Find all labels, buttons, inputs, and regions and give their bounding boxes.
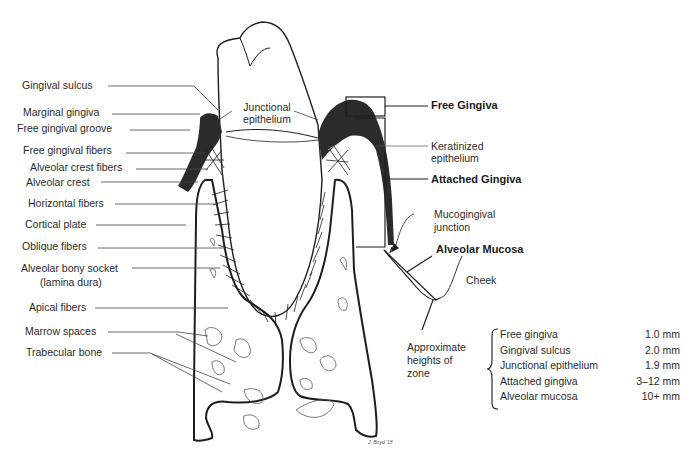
- label-alveolar-crest: Alveolar crest: [26, 176, 90, 188]
- zone-name: Gingival sulcus: [500, 343, 571, 359]
- table-row: Attached gingiva3–12 mm: [500, 374, 680, 390]
- label-lamina-dura: (lamina dura): [40, 276, 102, 288]
- label-keratinized-epithelium-2: epithelium: [431, 152, 479, 164]
- label-marrow-spaces: Marrow spaces: [25, 325, 96, 337]
- brace-icon: [486, 328, 500, 410]
- label-free-gingival-groove: Free gingival groove: [17, 122, 112, 134]
- tooth: [217, 22, 322, 316]
- label-free-gingiva: Free Gingiva: [431, 99, 498, 111]
- label-junctional-epithelium-1: Junctional: [235, 101, 299, 113]
- table-row: Alveolar mucosa10+ mm: [500, 389, 680, 405]
- label-mucogingival-junction-2: junction: [434, 221, 470, 233]
- label-oblique-fibers: Oblique fibers: [22, 240, 87, 252]
- zone-name: Free gingiva: [500, 327, 558, 343]
- label-apical-fibers: Apical fibers: [29, 301, 86, 313]
- label-alveolar-crest-fibers: Alveolar crest fibers: [30, 161, 122, 173]
- table-row: Free gingiva1.0 mm: [500, 327, 680, 343]
- zone-heights-table: Free gingiva1.0 mm Gingival sulcus2.0 mm…: [500, 327, 680, 405]
- label-gingival-sulcus: Gingival sulcus: [22, 79, 93, 91]
- label-horizontal-fibers: Horizontal fibers: [28, 197, 104, 209]
- label-free-gingival-fibers: Free gingival fibers: [23, 144, 112, 156]
- label-cortical-plate: Cortical plate: [25, 218, 86, 230]
- zone-height: 1.9 mm: [645, 358, 680, 374]
- label-cheek: Cheek: [466, 274, 496, 286]
- label-alveolar-mucosa: Alveolar Mucosa: [436, 243, 523, 255]
- signature: J. Boyd '18: [367, 439, 393, 445]
- zone-height: 3–12 mm: [636, 374, 680, 390]
- label-approximate-3: zone: [407, 367, 430, 379]
- label-marginal-gingiva: Marginal gingiva: [23, 106, 99, 118]
- label-alveolar-bony-socket: Alveolar bony socket: [21, 262, 118, 274]
- right-gingiva: [318, 100, 394, 245]
- label-attached-gingiva: Attached Gingiva: [431, 173, 521, 185]
- label-trabecular-bone: Trabecular bone: [26, 346, 102, 358]
- label-approximate-1: Approximate: [407, 341, 466, 353]
- label-approximate-2: heights of: [407, 354, 453, 366]
- table-row: Junctional epithelium1.9 mm: [500, 358, 680, 374]
- zone-height: 2.0 mm: [645, 343, 680, 359]
- zone-height: 10+ mm: [642, 389, 680, 405]
- label-junctional-epithelium-2: epithelium: [235, 113, 299, 125]
- zone-name: Junctional epithelium: [500, 358, 598, 374]
- label-mucogingival-junction-1: Mucogingival: [434, 208, 495, 220]
- zone-name: Attached gingiva: [500, 374, 578, 390]
- zone-height: 1.0 mm: [645, 327, 680, 343]
- label-keratinized-epithelium-1: Keratinized: [431, 140, 484, 152]
- table-row: Gingival sulcus2.0 mm: [500, 343, 680, 359]
- zone-name: Alveolar mucosa: [500, 389, 578, 405]
